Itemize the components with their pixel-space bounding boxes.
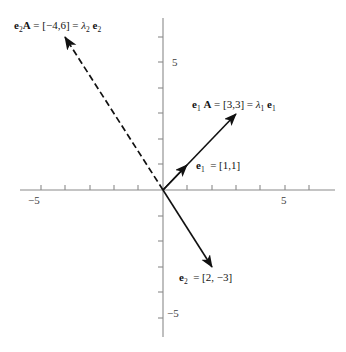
y-tick-label-pos5: 5 xyxy=(172,57,178,68)
vector-e1A xyxy=(163,114,236,190)
label-e2: e2 = [2, −3] xyxy=(179,272,232,283)
y-tick-label-neg5: −5 xyxy=(167,308,179,319)
label-e2A: e2A = [−4,6] = λ2 e2 xyxy=(14,20,101,31)
y-axis-ticks xyxy=(158,37,163,318)
vector-e2 xyxy=(163,190,212,267)
label-e1: e1 = [1,1] xyxy=(196,160,240,171)
plot-canvas xyxy=(0,0,346,352)
x-axis-ticks xyxy=(41,185,309,190)
x-tick-label-pos5: 5 xyxy=(281,195,287,206)
x-tick-label-neg5: −5 xyxy=(28,195,40,206)
label-e1A: e1 A = [3,3] = λ1 e1 xyxy=(192,99,276,110)
vector-e2A xyxy=(65,37,163,190)
eigenvector-diagram: e2A = [−4,6] = λ2 e2 e1 A = [3,3] = λ1 e… xyxy=(0,0,346,352)
